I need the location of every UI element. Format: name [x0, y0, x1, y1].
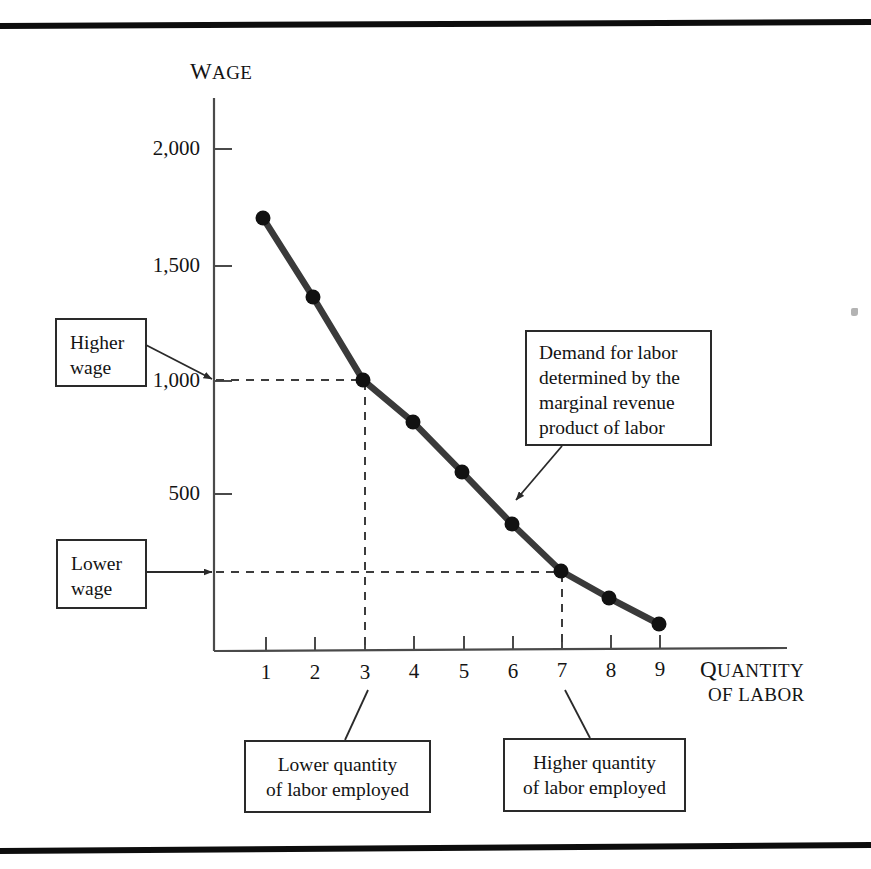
x-tick-label-7: 7	[551, 658, 573, 683]
data-point-6	[505, 517, 520, 532]
lower-wage-label: Lower wage	[71, 551, 122, 601]
top-rule	[0, 22, 871, 26]
higher-wage-label: Higher wage	[70, 330, 124, 380]
data-point-5	[455, 465, 470, 480]
bottom-rule	[0, 845, 871, 851]
higher-quantity-label: Higher quantity of labor employed	[504, 750, 685, 800]
x-axis-line	[214, 648, 787, 651]
demand-curve-label: Demand for labor determined by the margi…	[539, 340, 680, 441]
x-axis-title-initial: Q	[700, 657, 717, 682]
x-axis-title-line2: OF LABOR	[708, 684, 805, 706]
x-axis-title-line1: QUANTITY	[700, 656, 804, 683]
lower-quantity-leader	[345, 690, 368, 740]
economics-demand-for-labor-chart	[0, 0, 871, 869]
data-point-4	[406, 415, 421, 430]
x-tick-label-4: 4	[403, 659, 425, 684]
data-point-8	[602, 591, 617, 606]
data-point-2	[306, 290, 321, 305]
y-axis-title: WAGE	[190, 58, 252, 85]
y-tick-label-2000: 2,000	[100, 136, 200, 161]
scan-artifact-speck	[851, 308, 858, 316]
x-tick-label-9: 9	[649, 657, 671, 682]
lower-quantity-label: Lower quantity of labor employed	[245, 752, 430, 802]
y-axis-ticks	[214, 149, 232, 494]
x-tick-label-8: 8	[600, 658, 622, 683]
x-tick-label-5: 5	[453, 659, 475, 684]
data-point-9	[652, 617, 667, 632]
x-axis-title-line1-rest: UANTITY	[717, 660, 804, 681]
data-point-1	[256, 211, 271, 226]
data-point-3	[356, 373, 371, 388]
x-tick-label-2: 2	[304, 660, 326, 685]
y-tick-label-1500: 1,500	[100, 253, 200, 278]
data-point-7	[554, 564, 569, 579]
demand-curve-arrow	[516, 446, 562, 500]
higher-quantity-leader	[565, 690, 590, 738]
y-axis-title-initial: W	[190, 59, 212, 84]
figure-page: WAGE 2,000 1,500 1,000 500 1 2 3 4 5 6 7…	[0, 0, 871, 869]
y-axis-title-rest: AGE	[212, 62, 252, 83]
x-tick-label-1: 1	[255, 660, 277, 685]
x-tick-label-6: 6	[502, 659, 524, 684]
guide-lines	[216, 380, 562, 645]
x-tick-label-3: 3	[354, 660, 376, 685]
y-tick-label-500: 500	[100, 481, 200, 506]
